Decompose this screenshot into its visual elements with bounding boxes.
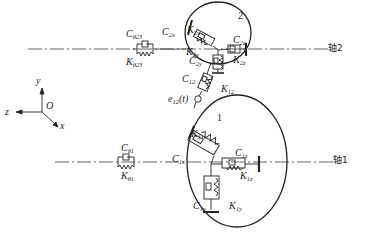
axis-origin-label: O <box>46 101 53 111</box>
gear1-number: 1 <box>217 113 222 123</box>
gear-dynamics-diagram: 轴2 轴1 2 1 y z x O Cθ23 Kθ23 C2x K2x K2y … <box>0 0 379 235</box>
axis-x-label: x <box>60 121 64 131</box>
label-k-theta1: Kθ1 <box>121 171 134 183</box>
label-c-12: C12 <box>182 74 195 86</box>
label-k-1x: K1x <box>191 129 204 141</box>
axis-z-label: z <box>5 107 9 117</box>
label-e-12: e12(t) <box>168 94 188 106</box>
torsion-spring-damper-1-icon <box>118 154 134 169</box>
label-c-2y: C2y <box>189 56 202 68</box>
label-k-2x: K2x <box>187 25 200 37</box>
label-k-2z: K2z <box>233 55 245 67</box>
label-c-1z: C1z <box>235 148 247 160</box>
shaft2-label: 轴2 <box>328 44 343 53</box>
shaft1-label: 轴1 <box>333 156 348 165</box>
gear2-number: 2 <box>238 11 243 21</box>
label-c-1y: C1y <box>193 201 206 213</box>
mesh-spring-damper-icon <box>194 63 213 108</box>
label-k-theta23: Kθ23 <box>126 57 142 69</box>
label-k-12: K12 <box>221 84 234 96</box>
label-k-1z: K1z <box>240 171 252 183</box>
label-c-theta1: Cθ1 <box>121 143 134 155</box>
label-c-2x: C2x <box>162 27 175 39</box>
label-c-theta23: Cθ23 <box>126 29 142 41</box>
torsion-spring-damper-23-icon <box>133 41 186 56</box>
label-c-2z: C2z <box>233 35 245 47</box>
label-k-1y: K1y <box>229 201 242 213</box>
label-c-1x: C1x <box>172 154 185 166</box>
axis-y-label: y <box>36 76 40 86</box>
